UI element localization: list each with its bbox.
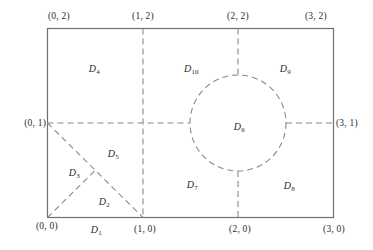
coord-label-right-mid: (3, 1) [336, 118, 358, 128]
region-label-d1-base: D [91, 224, 98, 235]
region-label-d6-base: D [234, 121, 241, 132]
region-label-d8-sub: 8 [291, 185, 295, 193]
diagonal-interface-minor [48, 171, 96, 218]
domain-decomposition-figure: (0, 2) (1, 2) (2, 2) (3, 2) (0, 1) (3, 1… [0, 0, 373, 250]
coord-label-left-mid: (0, 1) [24, 118, 46, 128]
region-label-d2: D2 [99, 196, 110, 207]
region-label-d9-base: D [280, 63, 287, 74]
region-label-d10-base: D [184, 63, 191, 74]
region-label-d3: D3 [69, 167, 80, 178]
coord-label-top-left: (0, 2) [48, 11, 70, 21]
coord-label-bottom-mid-2: (2, 0) [229, 224, 251, 234]
region-label-d8: D8 [284, 180, 295, 191]
region-label-d3-sub: 3 [76, 172, 80, 180]
region-label-d2-base: D [99, 196, 106, 207]
region-label-d6-sub: 6 [241, 126, 245, 134]
region-label-d10: D10 [184, 63, 198, 74]
region-label-d5: D5 [108, 148, 119, 159]
region-label-d4: D4 [89, 63, 100, 74]
region-label-d10-sub: 10 [191, 68, 198, 76]
region-label-d2-sub: 2 [106, 201, 110, 209]
region-label-d4-base: D [89, 63, 96, 74]
region-label-d3-base: D [69, 167, 76, 178]
region-label-d4-sub: 4 [96, 68, 100, 76]
region-label-d6: D6 [234, 121, 245, 132]
coord-label-bottom-mid-1: (1, 0) [134, 224, 156, 234]
coord-label-bottom-right: (3, 0) [323, 224, 345, 234]
region-label-d1: D1 [91, 224, 102, 235]
region-label-d7: D7 [187, 179, 198, 190]
region-label-d1-sub: 1 [98, 229, 102, 237]
region-label-d9-sub: 9 [287, 68, 291, 76]
region-label-d7-base: D [187, 179, 194, 190]
region-label-d8-base: D [284, 180, 291, 191]
region-label-d5-sub: 5 [115, 153, 119, 161]
coord-label-bottom-left: (0, 0) [36, 221, 58, 231]
coord-label-top-right: (3, 2) [305, 11, 327, 21]
coord-label-top-mid-1: (1, 2) [132, 11, 154, 21]
region-label-d9: D9 [280, 63, 291, 74]
diagram-canvas [0, 0, 373, 250]
coord-label-top-mid-2: (2, 2) [227, 11, 249, 21]
region-label-d5-base: D [108, 148, 115, 159]
region-label-d7-sub: 7 [194, 184, 198, 192]
